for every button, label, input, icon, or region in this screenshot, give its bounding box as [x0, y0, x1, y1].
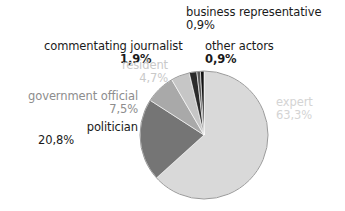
slice-label-other-actors-name: other actors	[205, 40, 274, 53]
slice-label-other-actors-value: 0,9%	[205, 53, 274, 66]
slice-label-government-official-name: government official	[4, 90, 138, 103]
pie-slice-government-official	[150, 80, 204, 135]
slice-label-politician: politician 20,8%	[38, 121, 138, 148]
chart-canvas: business representative 0,9% commentatin…	[0, 0, 345, 211]
pie-slice-politician	[140, 100, 204, 178]
slice-label-business-representative-value: 0,9%	[186, 19, 321, 32]
pie-slice-expert	[157, 71, 268, 199]
slice-label-government-official-value: 7,5%	[4, 103, 138, 116]
slice-label-expert-name: expert	[276, 96, 313, 109]
pie-slice-commentating-journalist	[189, 71, 204, 135]
slice-label-government-official: government official 7,5%	[4, 90, 138, 117]
slice-label-resident-value: 4,7%	[84, 72, 168, 85]
slice-label-business-representative-name: business representative	[186, 6, 321, 19]
slice-label-other-actors: other actors 0,9%	[205, 40, 274, 67]
pie-slice-resident	[172, 73, 204, 135]
slice-label-expert: expert 63,3%	[276, 96, 313, 123]
slice-label-commentating-journalist-name: commentating journalist	[44, 40, 183, 53]
slice-label-business-representative: business representative 0,9%	[186, 6, 321, 33]
slice-label-resident-name: resident	[84, 59, 168, 72]
pie-slice-business-representative	[197, 71, 204, 135]
pie-slice-other-actors	[200, 71, 204, 135]
slice-label-expert-value: 63,3%	[276, 109, 313, 122]
pie-slice-group	[140, 71, 268, 199]
slice-label-politician-name: politician	[38, 121, 138, 134]
slice-label-resident: resident 4,7%	[84, 59, 168, 86]
pie-outline	[140, 71, 268, 199]
slice-label-politician-value: 20,8%	[38, 134, 138, 147]
